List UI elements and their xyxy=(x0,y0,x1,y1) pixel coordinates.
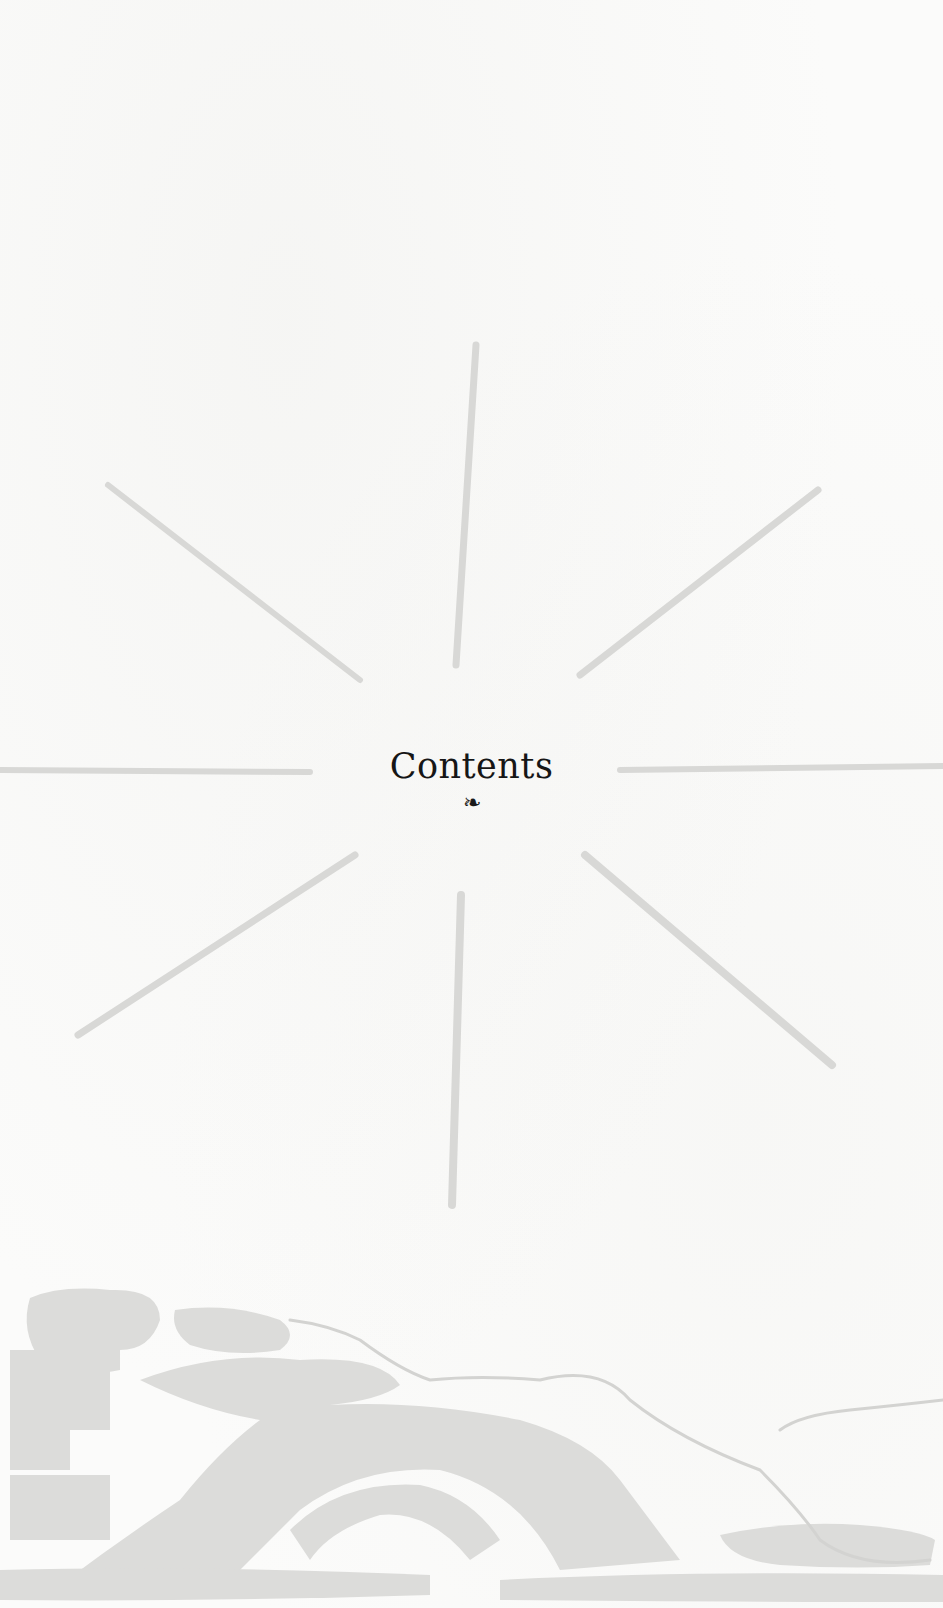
building-base-left xyxy=(10,1475,110,1540)
book-page: Contents ❧ xyxy=(0,0,943,1608)
ray-upper-right xyxy=(580,490,818,675)
tree-cluster-top xyxy=(174,1308,290,1354)
fleuron-icon: ❧ xyxy=(0,790,943,816)
ray-lower-left xyxy=(78,855,355,1035)
ground-band-right xyxy=(500,1573,943,1602)
ray-upper-left xyxy=(108,485,360,680)
central-hill xyxy=(60,1358,680,1586)
inner-ridge xyxy=(290,1485,500,1560)
far-hill-outline xyxy=(780,1400,943,1430)
ray-top xyxy=(456,345,476,665)
landscape-illustration xyxy=(0,1240,943,1608)
building-left xyxy=(10,1350,110,1470)
ground-band xyxy=(0,1568,430,1600)
ray-bottom xyxy=(452,895,461,1205)
ray-lower-right xyxy=(585,855,832,1065)
contents-heading: Contents xyxy=(0,744,943,788)
